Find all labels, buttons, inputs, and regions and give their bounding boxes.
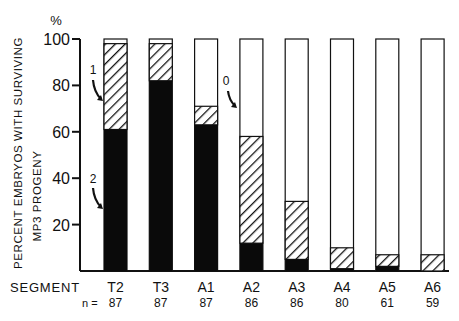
bars (104, 39, 444, 271)
x-tick-label: A1 (198, 279, 215, 295)
stacked-bar-chart: PERCENT EMBRYOS WITH SURVIVING MP3 PROGE… (0, 0, 459, 321)
x-tick-label: A6 (424, 279, 441, 295)
n-value: 80 (335, 296, 349, 310)
segment-hatched (149, 44, 172, 81)
x-tick-label: A4 (333, 279, 350, 295)
svg-text:0: 0 (223, 74, 230, 88)
n-value: 86 (245, 296, 259, 310)
n-value: 87 (199, 296, 213, 310)
segment-black (104, 129, 127, 271)
segment-hatched (240, 136, 263, 243)
n-value: 87 (154, 296, 168, 310)
annotation-0: 0 (223, 74, 237, 108)
n-value: 59 (426, 296, 440, 310)
segment-hatched (195, 106, 218, 125)
y-axis-label-line2: MP3 PROGENY (31, 151, 43, 242)
x-tick-label: T3 (153, 279, 170, 295)
y-tick-label: 60 (52, 124, 70, 141)
segment-black (376, 266, 399, 271)
n-value: 87 (109, 296, 123, 310)
y-tick-label: 40 (52, 170, 70, 187)
bar-T2 (104, 39, 127, 271)
x-axis-labels: T287T387A187A286A386A480A561A659 (107, 279, 441, 310)
n-label: n = (82, 297, 98, 309)
annotation-2: 2 (90, 172, 103, 209)
x-axis-title: SEGMENT (10, 280, 80, 295)
svg-text:2: 2 (90, 172, 97, 186)
segment-hatched (421, 255, 444, 271)
bar-A1 (195, 39, 218, 271)
arrow-icon (93, 80, 101, 99)
y-axis-label-line1: PERCENT EMBRYOS WITH SURVIVING (12, 37, 24, 269)
segment-black (331, 269, 354, 271)
x-tick-label: A3 (288, 279, 305, 295)
bar-A5 (376, 39, 399, 271)
segment-black (195, 125, 218, 271)
segment-hatched (285, 201, 308, 259)
x-tick-label: T2 (107, 279, 124, 295)
bar-A6 (421, 39, 444, 271)
annotation-1: 1 (90, 63, 103, 101)
segment-hatched (376, 255, 399, 267)
bar-A3 (285, 39, 308, 271)
n-value: 61 (381, 296, 395, 310)
bar-A4 (331, 39, 354, 271)
bar-T3 (149, 39, 172, 271)
bar-A2 (240, 39, 263, 271)
svg-text:1: 1 (90, 63, 97, 77)
segment-hatched (104, 44, 127, 130)
y-tick-label: 20 (52, 217, 70, 234)
segment-black (240, 243, 263, 271)
x-tick-label: A5 (379, 279, 396, 295)
y-axis-unit: % (50, 13, 62, 28)
segment-black (149, 81, 172, 271)
n-value: 86 (290, 296, 304, 310)
x-tick-label: A2 (243, 279, 260, 295)
segment-black (285, 259, 308, 271)
y-tick-label: 100 (43, 31, 70, 48)
y-tick-label: 80 (52, 77, 70, 94)
arrow-icon (93, 188, 101, 207)
segment-hatched (331, 248, 354, 269)
